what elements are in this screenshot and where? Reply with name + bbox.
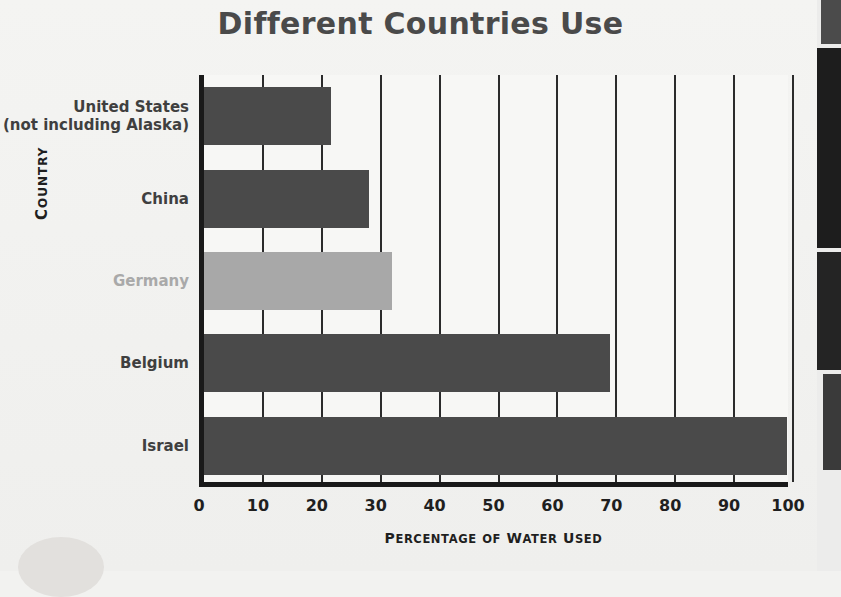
bar-row bbox=[204, 417, 793, 475]
x-axis-tick-label: 100 bbox=[771, 496, 804, 515]
y-axis-label: China bbox=[141, 190, 189, 208]
scan-artifact-4 bbox=[823, 374, 841, 470]
scan-artifact-2 bbox=[817, 48, 841, 248]
bar bbox=[204, 334, 610, 392]
chart-title: The Amount of Water Different Countries … bbox=[0, 0, 841, 42]
scan-artifact-3 bbox=[817, 252, 841, 370]
y-axis-label-line: Germany bbox=[113, 272, 189, 290]
x-axis-tick-label: 40 bbox=[423, 496, 445, 515]
x-axis-tick-label: 90 bbox=[718, 496, 740, 515]
x-axis-tick-label: 80 bbox=[659, 496, 681, 515]
bar bbox=[204, 252, 392, 310]
x-axis-title-smallcaps: ATER bbox=[523, 532, 558, 546]
scan-corner-smudge bbox=[18, 537, 104, 597]
plot-area bbox=[199, 75, 788, 487]
x-axis-title-cap: P bbox=[385, 530, 396, 546]
bar-row bbox=[204, 252, 793, 310]
bar-row bbox=[204, 334, 793, 392]
chart-title-line2: Different Countries Use bbox=[0, 6, 841, 42]
x-axis-ticks: 0102030405060708090100 bbox=[0, 496, 841, 520]
x-axis-tick-label: 0 bbox=[193, 496, 204, 515]
y-axis-label: Israel bbox=[142, 437, 189, 455]
y-axis-labels: United States(not including Alaska)China… bbox=[0, 75, 199, 487]
y-axis-label-line: Israel bbox=[142, 437, 189, 455]
bar bbox=[204, 87, 331, 145]
bar bbox=[204, 170, 369, 228]
x-axis-title-cap: W bbox=[506, 530, 522, 546]
x-axis-tick-label: 30 bbox=[365, 496, 387, 515]
x-axis-title-smallcaps: SED bbox=[575, 532, 602, 546]
y-axis-label-line: China bbox=[141, 190, 189, 208]
y-axis-label: United States(not including Alaska) bbox=[3, 98, 189, 134]
x-axis-tick-label: 10 bbox=[247, 496, 269, 515]
x-axis-title-smallcaps: OF bbox=[482, 532, 501, 546]
bar bbox=[204, 417, 787, 475]
y-axis-label: Germany bbox=[113, 272, 189, 290]
x-axis-tick-label: 50 bbox=[482, 496, 504, 515]
y-axis-label-line: United States bbox=[3, 98, 189, 116]
x-axis-title-cap: U bbox=[563, 530, 575, 546]
bar-row bbox=[204, 87, 793, 145]
y-axis-label-line: (not including Alaska) bbox=[3, 116, 189, 134]
x-axis-tick-label: 20 bbox=[306, 496, 328, 515]
y-axis-label-line: Belgium bbox=[120, 354, 189, 372]
bar-row bbox=[204, 170, 793, 228]
x-axis-title: PERCENTAGE OF WATER USED bbox=[199, 530, 788, 546]
x-axis-tick-label: 70 bbox=[600, 496, 622, 515]
x-axis-tick-label: 60 bbox=[541, 496, 563, 515]
y-axis-label: Belgium bbox=[120, 354, 189, 372]
x-axis-title-smallcaps: ERCENTAGE bbox=[395, 532, 476, 546]
